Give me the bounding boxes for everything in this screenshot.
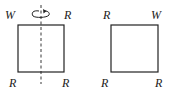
left-bottom-left-label: R bbox=[8, 76, 17, 90]
left-bottom-right-label: R bbox=[61, 76, 70, 90]
left-top-left-label: W bbox=[5, 8, 16, 22]
left-square-group: W R R R bbox=[5, 5, 72, 90]
right-bottom-left-label: R bbox=[100, 76, 109, 90]
right-top-right-label: W bbox=[151, 8, 162, 22]
left-square bbox=[18, 25, 64, 72]
right-bottom-right-label: R bbox=[154, 76, 163, 90]
right-square-group: R W R R bbox=[100, 8, 163, 90]
diagram-canvas: W R R R R W R R bbox=[0, 0, 180, 91]
right-top-left-label: R bbox=[102, 8, 111, 22]
right-square bbox=[111, 25, 158, 72]
left-top-right-label: R bbox=[63, 8, 72, 22]
